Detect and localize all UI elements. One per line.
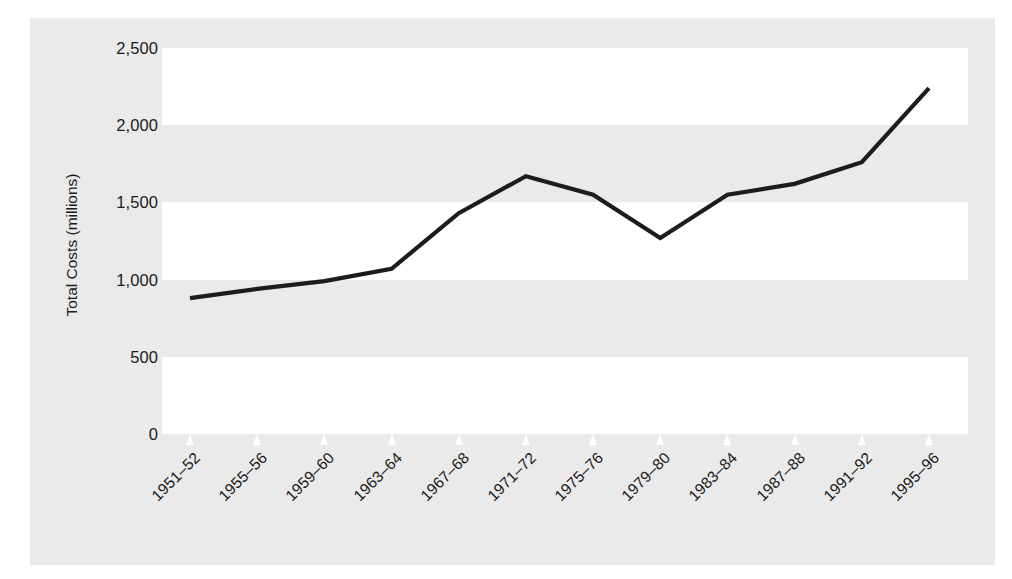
data-line-svg	[162, 48, 968, 434]
x-axis-tick-label: 1987–88	[753, 449, 809, 505]
x-axis-tick-mark	[656, 434, 664, 445]
x-axis-tick-label: 1995–96	[887, 449, 943, 505]
y-axis-tick-label: 1,000	[116, 271, 158, 288]
x-axis-tick-mark	[791, 434, 799, 445]
x-axis-tick-mark	[455, 434, 463, 445]
chart-figure: 2,5002,0001,5001,0005000 Total Costs (mi…	[30, 18, 995, 565]
x-axis-tick-label: 1975–76	[551, 449, 607, 505]
x-axis-tick-label: 1955–56	[215, 449, 271, 505]
y-axis-tick-label: 2,500	[116, 40, 158, 57]
y-axis-tick-label: 1,500	[116, 194, 158, 211]
y-axis-tick-label: 2,000	[116, 117, 158, 134]
x-axis-tick-label: 1971–72	[484, 449, 540, 505]
x-axis-tick-mark	[858, 434, 866, 445]
x-axis-tick-label: 1983–84	[685, 449, 741, 505]
x-axis-tick-mark	[723, 434, 731, 445]
x-axis-tick-mark	[589, 434, 597, 445]
x-axis-tick-labels: 1951–521955–561959–601963–641967–681971–…	[30, 448, 995, 558]
data-line-series	[190, 88, 929, 298]
x-axis-tick-label: 1979–80	[618, 449, 674, 505]
x-axis-tick-mark	[320, 434, 328, 445]
plot-area	[162, 48, 968, 434]
x-axis-tick-mark	[253, 434, 261, 445]
x-axis-tick-label: 1959–60	[282, 449, 338, 505]
y-axis-title: Total Costs (millions)	[63, 130, 81, 360]
x-axis-tick-label: 1963–64	[350, 449, 406, 505]
x-axis-tick-mark	[522, 434, 530, 445]
y-axis-tick-label: 500	[130, 349, 158, 366]
x-axis-tick-mark	[186, 434, 194, 445]
x-axis-tick-marks	[30, 434, 995, 446]
x-axis-tick-label: 1991–92	[820, 449, 876, 505]
x-axis-tick-label: 1967–68	[417, 449, 473, 505]
x-axis-tick-mark	[388, 434, 396, 445]
x-axis-tick-label: 1951–52	[148, 449, 204, 505]
x-axis-tick-mark	[925, 434, 933, 445]
